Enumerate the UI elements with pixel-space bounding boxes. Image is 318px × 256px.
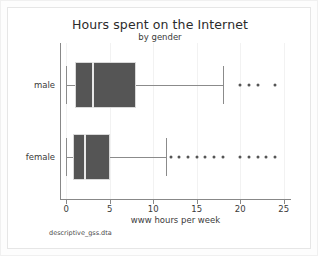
median-line <box>84 134 86 180</box>
whisker-cap <box>66 66 67 105</box>
outlier-point <box>195 155 198 158</box>
outlier-point <box>213 155 216 158</box>
x-tick-label: 0 <box>64 204 69 214</box>
outlier-point <box>274 155 277 158</box>
outlier-point <box>221 155 224 158</box>
outlier-point <box>239 84 242 87</box>
x-tick-label: 25 <box>278 204 289 214</box>
gridline <box>153 43 154 199</box>
y-axis-label-male: male <box>0 80 55 90</box>
outlier-point <box>178 155 181 158</box>
outlier-point <box>274 84 277 87</box>
whisker-cap <box>66 138 67 177</box>
gridline <box>284 43 285 199</box>
whisker-cap <box>223 66 224 105</box>
box-female <box>73 134 110 180</box>
x-tick-label: 20 <box>235 204 246 214</box>
whisker-cap <box>166 138 167 177</box>
outlier-point <box>256 84 259 87</box>
outlier-point <box>169 155 172 158</box>
outlier-point <box>256 155 259 158</box>
gridline <box>197 43 198 199</box>
x-tick-label: 15 <box>191 204 202 214</box>
outlier-point <box>247 155 250 158</box>
outlier-point <box>239 155 242 158</box>
box-male <box>75 62 136 108</box>
y-axis-line <box>60 43 61 200</box>
source-note: descriptive_gss.dta <box>49 229 112 237</box>
x-axis-line <box>60 199 291 200</box>
outlier-point <box>187 155 190 158</box>
outlier-point <box>265 155 268 158</box>
median-line <box>92 62 94 108</box>
y-axis-label-female: female <box>0 152 55 162</box>
x-tick-label: 10 <box>148 204 159 214</box>
figure: Hours spent on the Internet by gender 05… <box>0 0 318 256</box>
chart-title: Hours spent on the Internet <box>1 17 318 32</box>
outlier-point <box>204 155 207 158</box>
x-axis-title: www hours per week <box>60 215 291 225</box>
chart-subtitle: by gender <box>1 32 318 42</box>
outlier-point <box>247 84 250 87</box>
gridline <box>240 43 241 199</box>
x-tick-label: 5 <box>107 204 112 214</box>
